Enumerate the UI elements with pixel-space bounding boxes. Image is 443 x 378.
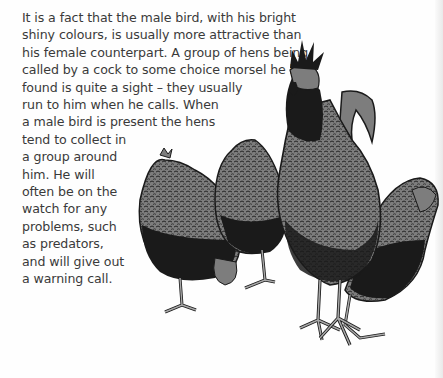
book-page: It is a fact that the male bird, with hi… [0,0,443,378]
chickens-illustration [130,30,443,378]
text-line: It is a fact that the male bird, with hi… [22,9,312,26]
